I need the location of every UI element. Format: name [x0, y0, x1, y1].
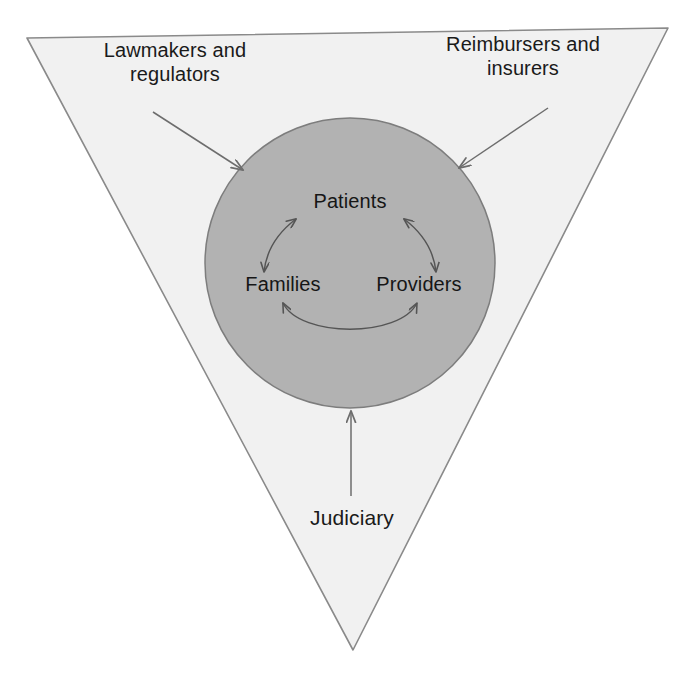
label-providers: Providers — [357, 272, 481, 296]
core-circle — [205, 118, 495, 408]
label-reimbursers-and-insurers: Reimbursers and insurers — [408, 32, 638, 81]
label-patients: Patients — [290, 189, 410, 213]
label-families: Families — [223, 272, 343, 296]
label-judiciary: Judiciary — [272, 505, 432, 531]
diagram-canvas — [0, 0, 692, 684]
label-lawmakers-and-regulators: Lawmakers and regulators — [60, 38, 290, 87]
stakeholder-diagram: Lawmakers and regulators Reimbursers and… — [0, 0, 692, 684]
